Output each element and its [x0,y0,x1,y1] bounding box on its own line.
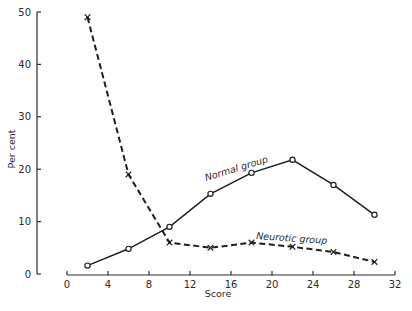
y-tick-label: 40 [18,59,31,70]
circle-marker-icon [167,224,172,229]
y-tick-label: 20 [18,164,31,175]
circle-marker-icon [290,157,295,162]
normal-group-label: Normal group [203,153,269,183]
x-tick-label: 28 [348,279,361,290]
circle-marker-icon [126,246,131,251]
x-tick-label: 4 [105,279,111,290]
circle-marker-icon [372,212,377,217]
y-axis-title: Per cent [6,129,17,168]
y-tick-label: 0 [25,269,31,280]
x-tick-label: 12 [184,279,197,290]
x-axis-title: Score [205,288,232,299]
x-tick-label: 8 [146,279,152,290]
series-layer [85,14,378,268]
neurotic-group-label: Neurotic group [256,230,328,246]
y-tick-label: 30 [18,111,31,122]
circle-marker-icon [331,182,336,187]
x-tick-label: 20 [266,279,279,290]
x-tick-label: 0 [64,279,70,290]
x-axis: 048121620242832 [64,271,402,290]
series-line [88,17,375,262]
neurotic-series [85,14,378,264]
y-axis: 01020304050 [18,7,41,280]
y-tick-label: 10 [18,216,31,227]
y-tick-label: 50 [18,7,31,18]
x-tick-label: 32 [389,279,402,290]
line-chart: 01020304050 048121620242832 Per cent Sco… [0,0,412,311]
x-tick-label: 24 [307,279,320,290]
circle-marker-icon [85,263,90,268]
circle-marker-icon [249,170,254,175]
circle-marker-icon [208,191,213,196]
